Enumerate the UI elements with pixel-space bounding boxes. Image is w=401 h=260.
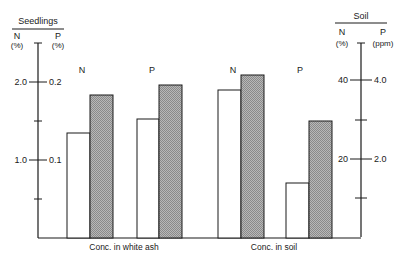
right-tick-4: 4.0 xyxy=(374,75,387,85)
left-axis: 2.0 0.2 1.0 0.1 xyxy=(14,43,61,238)
left-tick-1-p: 0.1 xyxy=(49,155,62,165)
soil-p-label: P xyxy=(297,65,303,75)
right-axis-title: Soil xyxy=(353,11,368,21)
left-p-label: P xyxy=(55,31,61,41)
xlabel-white-ash: Conc. in white ash xyxy=(89,242,159,252)
bar-soil-p-open xyxy=(286,183,309,238)
left-tick-1-n: 1.0 xyxy=(14,155,27,165)
right-n-label: N xyxy=(339,27,346,37)
left-n-label: N xyxy=(14,31,21,41)
bar-chart: Seedlings N (%) P (%) 2.0 0.2 1.0 0.1 So… xyxy=(0,0,401,260)
right-tick-20: 20 xyxy=(338,154,348,164)
bar-soil-n-open xyxy=(218,90,241,238)
left-axis-title: Seedlings xyxy=(18,16,58,26)
bar-ash-p-hatched xyxy=(159,85,182,238)
bar-ash-n-hatched xyxy=(90,95,113,238)
ash-p-label: P xyxy=(149,65,155,75)
right-p-unit: (ppm) xyxy=(373,39,394,48)
right-tick-2: 2.0 xyxy=(374,154,387,164)
left-n-unit: (%) xyxy=(11,41,24,50)
left-tick-2-p: 0.2 xyxy=(49,77,62,87)
right-p-label: P xyxy=(380,27,386,37)
bar-soil-p-hatched xyxy=(309,121,332,238)
xlabel-soil: Conc. in soil xyxy=(251,242,297,252)
bar-ash-p-open xyxy=(137,119,159,238)
bar-ash-n-open xyxy=(67,133,90,238)
right-axis-header: Soil N (%) P (ppm) xyxy=(335,11,394,48)
left-p-unit: (%) xyxy=(52,41,65,50)
bar-soil-n-hatched xyxy=(241,75,264,238)
right-n-unit: (%) xyxy=(336,39,349,48)
soil-n-label: N xyxy=(230,65,237,75)
left-tick-2-n: 2.0 xyxy=(14,77,27,87)
bar-group-white-ash xyxy=(67,85,182,238)
bar-group-soil xyxy=(218,75,332,238)
ash-n-label: N xyxy=(79,65,86,75)
right-tick-40: 40 xyxy=(338,75,348,85)
right-axis: 40 4.0 20 2.0 xyxy=(338,43,387,237)
